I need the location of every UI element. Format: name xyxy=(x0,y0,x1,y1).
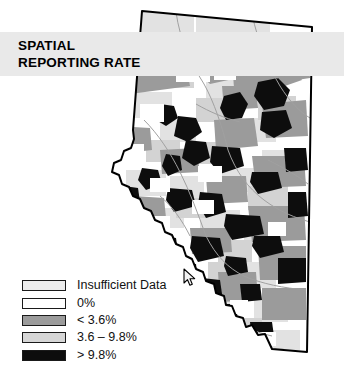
legend-swatch-zero-percent xyxy=(22,298,66,309)
title-line-2: REPORTING RATE xyxy=(18,54,248,71)
map-legend: Insufficient Data 0% < 3.6% 3.6 – 9.8% >… xyxy=(22,277,192,364)
legend-swatch-under-3-6 xyxy=(22,315,66,326)
mouse-pointer-icon xyxy=(183,268,197,287)
legend-item-under-3-6: < 3.6% xyxy=(22,312,192,329)
legend-item-zero-percent: 0% xyxy=(22,294,192,311)
page-title: SPATIAL REPORTING RATE xyxy=(18,33,248,75)
spatial-reporting-rate-figure: SPATIAL REPORTING RATE Insufficient Data… xyxy=(0,0,344,389)
legend-label-zero-percent: 0% xyxy=(77,297,95,310)
title-line-1: SPATIAL xyxy=(18,37,248,54)
legend-item-over-9-8: > 9.8% xyxy=(22,347,192,364)
legend-label-over-9-8: > 9.8% xyxy=(77,349,116,362)
legend-swatch-over-9-8 xyxy=(22,350,66,361)
legend-label-insufficient-data: Insufficient Data xyxy=(77,279,166,292)
legend-label-3-6-to-9-8: 3.6 – 9.8% xyxy=(77,331,137,344)
legend-label-under-3-6: < 3.6% xyxy=(77,314,116,327)
legend-swatch-3-6-to-9-8 xyxy=(22,332,66,343)
legend-swatch-insufficient-data xyxy=(22,280,66,291)
legend-item-3-6-to-9-8: 3.6 – 9.8% xyxy=(22,329,192,346)
legend-item-insufficient-data: Insufficient Data xyxy=(22,277,192,294)
